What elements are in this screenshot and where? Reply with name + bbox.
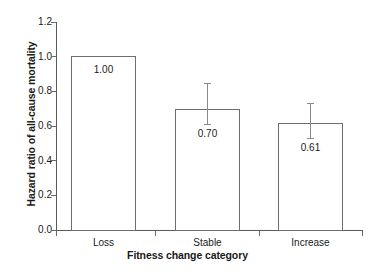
bar-value-label-stable: 0.70 xyxy=(175,129,240,139)
y-tick-label-0-2: 0.2 xyxy=(24,190,52,200)
y-tick-mark-0-4 xyxy=(51,160,56,161)
y-tick-label-0-6: 0.6 xyxy=(24,121,52,131)
y-axis-spine xyxy=(56,22,57,231)
bar-value-label-increase: 0.61 xyxy=(278,143,343,153)
y-tick-mark-1-0 xyxy=(51,56,56,57)
x-tick-label-stable: Stable xyxy=(175,238,240,248)
x-axis-label: Fitness change category xyxy=(0,249,375,261)
bar-value-label-loss: 1.00 xyxy=(71,65,136,75)
error-bar-cap-upper-increase xyxy=(307,103,314,104)
y-tick-mark-0-2 xyxy=(51,195,56,196)
x-tick-mark-3 xyxy=(362,231,363,236)
bar-increase[interactable] xyxy=(278,123,343,231)
bar-loss[interactable] xyxy=(71,56,136,231)
y-tick-label-0-8: 0.8 xyxy=(24,86,52,96)
x-tick-mark-1 xyxy=(155,231,156,236)
x-tick-label-loss: Loss xyxy=(71,238,136,248)
x-tick-label-increase: Increase xyxy=(278,238,343,248)
y-tick-mark-0-8 xyxy=(51,91,56,92)
error-bar-cap-upper-stable xyxy=(204,83,211,84)
y-tick-label-1-0: 1.0 xyxy=(24,52,52,62)
error-bar-cap-lower-increase xyxy=(307,138,314,139)
x-tick-mark-2 xyxy=(259,231,260,236)
bar-chart-figure: Hazard ratio of all-cause mortality 1.2 … xyxy=(0,0,375,271)
x-tick-mark-0 xyxy=(56,231,57,236)
error-bar-cap-lower-stable xyxy=(204,124,211,125)
y-tick-mark-0-6 xyxy=(51,126,56,127)
error-bar-line-stable xyxy=(207,83,208,125)
y-tick-label-0-0: 0.0 xyxy=(24,225,52,235)
error-bar-line-increase xyxy=(310,103,311,139)
y-tick-mark-1-2 xyxy=(51,22,56,23)
y-tick-label-1-2: 1.2 xyxy=(24,17,52,27)
y-tick-label-0-4: 0.4 xyxy=(24,156,52,166)
